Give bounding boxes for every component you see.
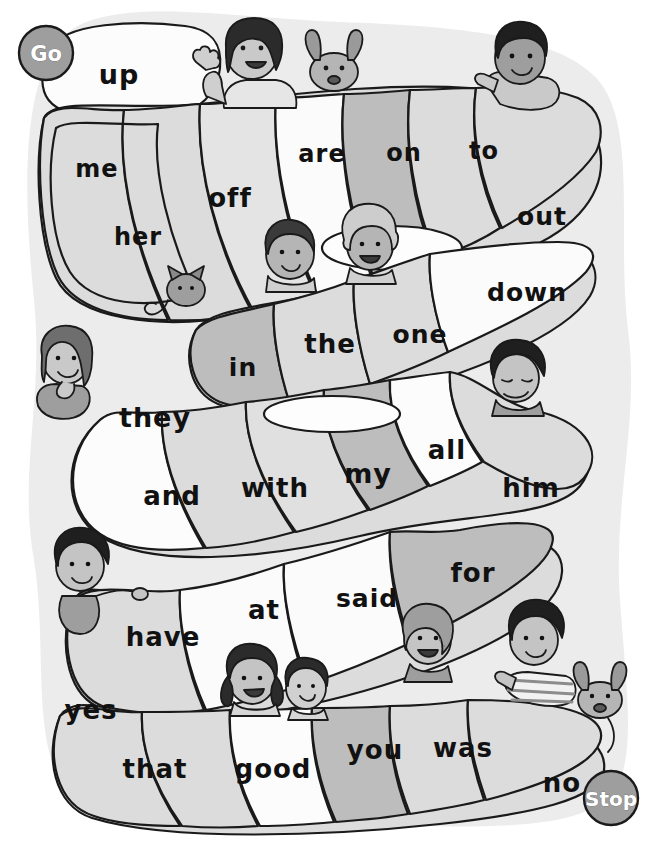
word-cell-with[interactable]: with	[241, 473, 309, 503]
word-cell-are[interactable]: are	[298, 140, 345, 168]
word-cell-one[interactable]: one	[393, 320, 448, 349]
word-row-1: up	[99, 59, 140, 90]
word-cell-all[interactable]: all	[428, 435, 466, 465]
word-cell-the[interactable]: the	[304, 329, 356, 359]
oval-link-lower	[264, 396, 400, 432]
board-canvas: upmeheroffareontooutintheonedowntheyandw…	[0, 0, 652, 841]
word-cell-off[interactable]: off	[208, 183, 252, 213]
word-cell-they[interactable]: they	[119, 402, 191, 433]
word-cell-you[interactable]: you	[347, 735, 403, 765]
end-marker-label: Stop	[585, 787, 637, 811]
girl-long-hair-hand-on-chin-icon	[37, 326, 92, 419]
word-cell-said[interactable]: said	[336, 584, 398, 613]
word-cell-and[interactable]: and	[143, 481, 201, 511]
start-marker-label: Go	[30, 42, 62, 66]
word-cell-good[interactable]: good	[235, 754, 312, 784]
word-cell-her[interactable]: her	[114, 223, 162, 251]
word-cell-no[interactable]: no	[543, 768, 581, 798]
word-cell-was[interactable]: was	[433, 733, 493, 763]
word-cell-yes[interactable]: yes	[64, 695, 117, 725]
word-cell-my[interactable]: my	[344, 458, 392, 489]
word-cell-out[interactable]: out	[517, 202, 567, 231]
word-cell-in[interactable]: in	[229, 353, 257, 382]
word-cell-to[interactable]: to	[469, 137, 499, 165]
sight-word-board-game: upmeheroffareontooutintheonedowntheyandw…	[0, 0, 652, 841]
word-cell-up[interactable]: up	[99, 59, 140, 90]
word-cell-for[interactable]: for	[451, 558, 496, 588]
word-cell-that[interactable]: that	[123, 754, 188, 784]
word-cell-him[interactable]: him	[502, 473, 560, 503]
word-cell-on[interactable]: on	[386, 139, 422, 167]
word-cell-down[interactable]: down	[487, 278, 567, 307]
end-marker-stop[interactable]: Stop	[584, 771, 638, 825]
word-cell-me[interactable]: me	[75, 155, 118, 183]
word-cell-have[interactable]: have	[126, 622, 201, 652]
word-cell-at[interactable]: at	[248, 595, 280, 625]
start-marker-go[interactable]: Go	[19, 26, 73, 80]
